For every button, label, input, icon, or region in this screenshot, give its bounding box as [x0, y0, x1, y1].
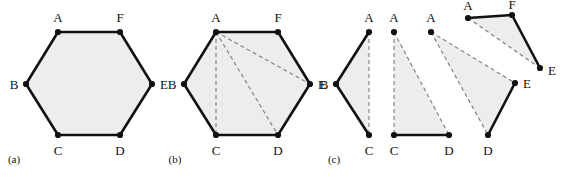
- panel-c-triangle-aef-vertex-a: [465, 15, 471, 21]
- panel-c-triangle-abc-label-c: C: [365, 144, 374, 157]
- panel-c-triangle-aef-label-e: E: [548, 64, 556, 77]
- panel-a-label-b: B: [10, 78, 19, 91]
- panel-a-label-d: D: [115, 144, 124, 157]
- panel-c-triangle-abc-fill: [336, 32, 369, 135]
- panel-caption-c: (c): [328, 154, 340, 165]
- panel-b-label-a: A: [211, 11, 220, 24]
- panel-caption-b: (b): [169, 154, 182, 165]
- panel-b-fill: [184, 32, 310, 135]
- panel-b-vertex-b: [181, 81, 187, 87]
- panel-c-triangle-aef-label-f: F: [508, 0, 515, 11]
- panel-a-vertex-a: [55, 29, 61, 35]
- panel-c-triangle-aef-fill: [468, 15, 540, 68]
- panel-c-triangle-acd-label-d: D: [444, 144, 453, 157]
- panel-c-triangle-acd-vertex-c: [391, 132, 397, 138]
- panel-b-label-b: B: [168, 78, 177, 91]
- panel-c-triangle-ade-fill: [431, 32, 515, 135]
- panel-b-label-f: F: [274, 11, 281, 24]
- panel-c-triangle-acd-vertex-d: [446, 132, 452, 138]
- figure-hexagon-triangulation: AFEDCB(a)AFEDCB(b)ABCACDADEAFE(c): [0, 0, 568, 177]
- panel-c-triangle-ade-vertex-e: [512, 80, 518, 86]
- panel-c-triangle-ade-vertex-a: [428, 29, 434, 35]
- panel-b-vertex-a: [213, 29, 219, 35]
- panel-a-vertex-b: [23, 81, 29, 87]
- panel-c-triangle-ade-label-d: D: [483, 144, 492, 157]
- panel-b-vertex-e: [307, 81, 313, 87]
- panel-a-label-a: A: [53, 11, 62, 24]
- panel-c-triangle-abc-label-a: A: [364, 11, 373, 24]
- panel-a-vertex-c: [55, 132, 61, 138]
- panel-c-triangle-ade-label-e: E: [523, 77, 531, 90]
- panel-caption-a: (a): [8, 154, 20, 165]
- panel-c-triangle-ade-label-a: A: [426, 11, 435, 24]
- panel-c-triangle-abc-label-b: B: [320, 78, 329, 91]
- panel-b-vertex-d: [275, 132, 281, 138]
- panel-c-triangle-acd-vertex-a: [391, 29, 397, 35]
- panel-b-vertex-f: [275, 29, 281, 35]
- panel-a-label-f: F: [116, 11, 123, 24]
- panel-b-vertex-c: [213, 132, 219, 138]
- panel-c-triangle-acd-label-c: C: [390, 144, 399, 157]
- panel-c-triangle-abc-vertex-a: [366, 29, 372, 35]
- panel-b-label-c: C: [212, 144, 221, 157]
- panel-c-triangle-aef-label-a: A: [463, 0, 472, 12]
- panel-b-label-d: D: [273, 144, 282, 157]
- panel-a-vertex-f: [117, 29, 123, 35]
- panel-c-triangle-ade-vertex-d: [485, 132, 491, 138]
- panel-a-vertex-d: [117, 132, 123, 138]
- panel-c-triangle-aef-vertex-f: [509, 12, 515, 18]
- panel-a-label-c: C: [54, 144, 63, 157]
- panel-c-triangle-aef-vertex-e: [537, 65, 543, 71]
- panel-c-triangle-abc-vertex-c: [366, 132, 372, 138]
- panel-a-vertex-e: [149, 81, 155, 87]
- panel-a-fill: [26, 32, 152, 135]
- panel-c-triangle-acd-label-a: A: [389, 11, 398, 24]
- panel-c-triangle-abc-vertex-b: [333, 81, 339, 87]
